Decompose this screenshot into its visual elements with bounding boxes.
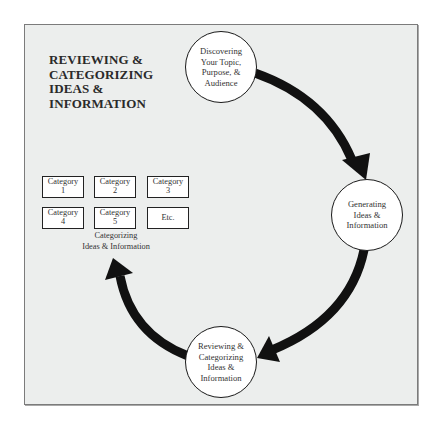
node-label-line: Ideas & [346, 210, 387, 221]
caption-line: Ideas & Information [66, 242, 166, 253]
category-number: 5 [95, 218, 135, 227]
node-label-line: Information [346, 220, 387, 231]
title-line: REVIEWING & [49, 53, 153, 68]
node-label-line: Categorizing [198, 352, 244, 363]
category-number: 4 [43, 218, 83, 227]
arrow-reviewing-to-categorizing [105, 258, 188, 356]
category-box-5: Category 5 [94, 207, 136, 229]
category-label: Etc. [148, 208, 188, 227]
node-label-line: Reviewing & [198, 341, 244, 352]
categorizing-caption: Categorizing Ideas & Information [66, 231, 166, 252]
node-generating: Generating Ideas & Information [331, 179, 403, 251]
category-box-2: Category 2 [94, 176, 136, 198]
category-box-1: Category 1 [42, 176, 84, 198]
node-label-line: Purpose, & [200, 67, 242, 78]
node-reviewing: Reviewing & Categorizing Ideas & Informa… [185, 326, 257, 398]
category-box-4: Category 4 [42, 207, 84, 229]
node-label-line: Information [198, 373, 244, 384]
category-number: 3 [148, 187, 188, 196]
arrow-discovering-to-generating [255, 73, 370, 180]
category-box-3: Category 3 [147, 176, 189, 198]
node-label-line: Audience [200, 78, 242, 89]
node-label-line: Your Topic, [200, 57, 242, 68]
title-line: CATEGORIZING [49, 68, 153, 83]
section-title: REVIEWING & CATEGORIZING IDEAS & INFORMA… [49, 53, 153, 111]
node-label-line: Ideas & [198, 362, 244, 373]
category-number: 2 [95, 187, 135, 196]
node-label-line: Discovering [200, 46, 242, 57]
node-label-line: Generating [346, 199, 387, 210]
caption-line: Categorizing [66, 231, 166, 242]
node-discovering: Discovering Your Topic, Purpose, & Audie… [185, 31, 257, 103]
arrow-generating-to-reviewing [257, 250, 364, 362]
category-number: 1 [43, 187, 83, 196]
title-line: INFORMATION [49, 97, 153, 112]
title-line: IDEAS & [49, 82, 153, 97]
category-box-etc: Etc. [147, 207, 189, 229]
